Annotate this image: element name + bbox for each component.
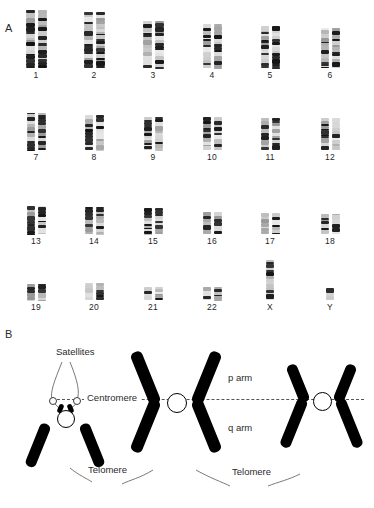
chromosome-12-copy-2 xyxy=(332,118,340,150)
chromosome-pair-13: 13 xyxy=(8,174,64,246)
chromosome-21-copy-1 xyxy=(144,287,152,300)
chromosome-band xyxy=(214,149,222,150)
chromatid-group xyxy=(302,174,358,234)
chromosome-band xyxy=(203,146,211,149)
chromosome-band xyxy=(272,233,280,234)
chromosome-5-copy-2 xyxy=(272,26,280,68)
chromatid-group xyxy=(242,90,298,150)
chromosome-pair-8: 8 xyxy=(66,90,122,162)
chromosome-9-copy-1 xyxy=(144,117,152,150)
chromosome-8-copy-1 xyxy=(85,115,93,150)
chromatid-group xyxy=(184,8,240,68)
chromosome-pair-19: 19 xyxy=(8,240,64,312)
chromosome-band xyxy=(214,56,222,60)
chromatid-group xyxy=(8,174,64,234)
chromatid-group xyxy=(242,174,298,234)
chromosome-band xyxy=(84,17,93,21)
chromosome-14-copy-2 xyxy=(96,207,104,234)
chromosome-band xyxy=(214,226,222,231)
chromosome-pair-15: 15 xyxy=(125,174,181,246)
chromosome-band xyxy=(261,147,269,150)
chromosome-pair-4: 4 xyxy=(184,8,240,80)
chromosome-band xyxy=(332,232,340,234)
chromosome-band xyxy=(96,234,104,235)
chromosome-label-9: 9 xyxy=(125,152,181,162)
chromosome-band xyxy=(321,146,329,150)
chromosome-band xyxy=(203,230,211,234)
chromosome-band xyxy=(155,27,164,31)
chromosome-label-20: 20 xyxy=(66,302,122,312)
panel-a-karyotype: A 123456 789101112 131415161718 19202122… xyxy=(0,0,374,318)
chromosome-band xyxy=(26,18,35,22)
chromosome-band xyxy=(27,150,35,151)
chromosome-band xyxy=(272,59,280,64)
chromatid-group xyxy=(66,240,122,300)
chromatid-group xyxy=(125,174,181,234)
chromosome-22-copy-1 xyxy=(203,287,211,300)
chromosome-label-1: 1 xyxy=(8,70,64,80)
chromosome-pair-10: 10 xyxy=(184,90,240,162)
chromosome-band xyxy=(84,64,93,68)
chromosome-pair-1: 1 xyxy=(8,8,64,80)
chromosome-band xyxy=(326,296,334,300)
chromosome-band xyxy=(85,297,93,300)
chromosome-band xyxy=(38,31,47,35)
chromosome-band xyxy=(261,231,269,234)
chromosome-14-copy-1 xyxy=(85,207,93,234)
panel-b-chromosome-diagram: B Centromere Satellites Acrocentric xyxy=(0,318,374,508)
chromosome-label-5: 5 xyxy=(242,70,298,80)
chromatid-group xyxy=(8,240,64,300)
chromosome-label-6: 6 xyxy=(302,70,358,80)
chromosome-band xyxy=(272,68,280,69)
chromosome-13-copy-2 xyxy=(38,206,46,234)
chromosome-19-copy-2 xyxy=(38,284,46,300)
chromosome-band xyxy=(27,226,35,231)
chromosome-band xyxy=(214,139,222,143)
chromosome-label-21: 21 xyxy=(125,302,181,312)
chromosome-pair-12: 12 xyxy=(302,90,358,162)
chromosome-label-10: 10 xyxy=(184,152,240,162)
chromosome-label-8: 8 xyxy=(66,152,122,162)
chromosome-label-3: 3 xyxy=(125,70,181,80)
chromosome-band xyxy=(27,300,35,301)
chromatid-group xyxy=(8,90,64,150)
chromosome-band xyxy=(321,130,329,134)
chromosome-band xyxy=(321,230,329,234)
chromosome-13-copy-1 xyxy=(27,206,35,234)
chromosome-11-copy-1 xyxy=(261,118,269,150)
chromosome-band xyxy=(85,288,93,292)
chromosome-pair-6: 6 xyxy=(302,8,358,80)
chromosome-band xyxy=(261,36,269,40)
chromosome-4-copy-2 xyxy=(214,24,222,68)
telomere-label-right: Telomere xyxy=(232,466,271,477)
chromatid-group xyxy=(302,8,358,68)
chromosome-9-copy-2 xyxy=(155,117,163,150)
chromosome-band xyxy=(143,56,152,61)
chromosome-band xyxy=(96,66,105,68)
chromosome-band xyxy=(155,232,163,234)
chromosome-18-copy-2 xyxy=(332,214,340,234)
telomere-leader-lines xyxy=(0,318,374,508)
chromatid-group xyxy=(184,174,240,234)
chromosome-2-copy-2 xyxy=(96,12,105,68)
chromosome-7-copy-2 xyxy=(38,113,46,150)
chromatid-group xyxy=(302,90,358,150)
chromosome-band xyxy=(96,297,104,300)
chromosome-label-y: Y xyxy=(302,302,358,312)
chromosome-1-copy-2 xyxy=(38,10,47,68)
chromosome-band xyxy=(261,66,269,68)
chromosome-pair-7: 7 xyxy=(8,90,64,162)
chromosome-band xyxy=(144,296,152,300)
chromosome-15-copy-2 xyxy=(155,208,163,234)
chromosome-label-11: 11 xyxy=(242,152,298,162)
chromosome-pair-21: 21 xyxy=(125,240,181,312)
chromosome-band xyxy=(332,67,340,68)
chromosome-x-copy-1 xyxy=(266,260,274,300)
chromosome-band xyxy=(155,298,163,300)
chromosome-19-copy-1 xyxy=(27,284,35,300)
chromosome-3-copy-1 xyxy=(143,21,152,68)
chromosome-band xyxy=(272,220,280,225)
chromosome-12-copy-1 xyxy=(321,118,329,150)
chromosome-pair-18: 18 xyxy=(302,174,358,246)
chromosome-band xyxy=(321,138,329,143)
